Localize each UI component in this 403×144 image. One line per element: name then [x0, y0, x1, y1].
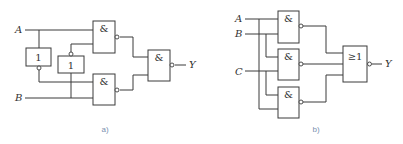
inversion-bubble: [170, 63, 174, 67]
wire-b-nand1-to-nor: [303, 26, 343, 53]
wire-a-nand1-to-nand3: [120, 37, 148, 57]
gate-a-nand-3: &: [148, 50, 174, 81]
inversion-bubble: [368, 62, 372, 66]
circuit-a: 1 1 & & & A B Y a): [14, 21, 197, 134]
gate-b-nand-1: &: [278, 11, 303, 43]
wire-b-b-to-nand2: [266, 34, 278, 57]
gate-a-nand-2: &: [93, 74, 119, 105]
circuit-b: & & & ≥1 A B C Y b): [234, 11, 393, 134]
inversion-bubble: [69, 52, 73, 56]
inversion-bubble: [115, 35, 119, 39]
inversion-bubble: [299, 24, 303, 28]
caption-a: a): [101, 125, 108, 134]
gate-b-nand-3: &: [278, 87, 303, 118]
gate-a-nand-1: &: [93, 21, 119, 53]
gate-a-not-2: 1: [58, 52, 84, 73]
gate-symbol: 1: [68, 60, 74, 71]
logic-circuits-figure: 1 1 & & & A B Y a): [0, 0, 403, 144]
gate-symbol: &: [155, 52, 164, 63]
input-label-b: B: [234, 28, 242, 39]
gate-symbol: &: [284, 13, 293, 24]
input-label-c: C: [235, 66, 243, 77]
gate-symbol: &: [284, 89, 293, 100]
gate-b-nor-1: ≥1: [343, 46, 372, 82]
gate-symbol: &: [100, 76, 109, 87]
wire-a-not2-to-nand1: [71, 44, 93, 52]
output-label-y: Y: [385, 58, 393, 69]
gate-symbol: &: [100, 23, 109, 34]
wire-a-nand2-to-nand3: [120, 75, 148, 90]
input-label-a: A: [14, 24, 22, 35]
wire-b-c-to-nand3: [266, 71, 278, 95]
input-label-a: A: [234, 13, 242, 24]
gate-symbol: ≥1: [348, 51, 363, 62]
input-label-b: B: [14, 92, 22, 103]
gate-symbol: &: [284, 51, 293, 62]
wire-b-nand3-to-nor: [303, 75, 343, 102]
inversion-bubble: [37, 66, 41, 70]
gate-symbol: 1: [35, 52, 41, 63]
inversion-bubble: [115, 88, 119, 92]
inversion-bubble: [299, 62, 303, 66]
gate-b-nand-2: &: [278, 49, 303, 80]
caption-b: b): [312, 125, 319, 134]
output-label-y: Y: [189, 59, 197, 70]
gate-a-not-1: 1: [26, 48, 51, 70]
inversion-bubble: [299, 100, 303, 104]
